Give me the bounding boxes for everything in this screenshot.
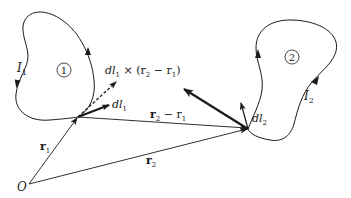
dl1-label: dl1 — [112, 98, 127, 113]
vector-dl1 — [78, 105, 109, 117]
loop1-marker-number: 1 — [61, 65, 67, 76]
vector-r2 — [29, 129, 247, 184]
r2-label: r2 — [146, 154, 156, 169]
loop1-current-label: I1 — [16, 61, 27, 77]
r2-minus-r1-label: r2 − r1 — [150, 108, 186, 123]
biot-savart-diagram: 1 2 I1 I2 dl1 × (r2 − r1) dl1 dl2 r2 − r… — [0, 0, 351, 198]
loop2-direction-arrow-icon — [311, 76, 319, 85]
vector-force-on-dl2 — [184, 89, 248, 129]
vector-dl1-cross-r — [78, 82, 116, 117]
loop2-current-label: I2 — [303, 89, 314, 105]
dl2-label: dl2 — [252, 112, 267, 127]
r1-label: r1 — [40, 140, 50, 155]
current-loop-1 — [16, 12, 95, 120]
cross-product-label: dl1 × (r2 − r1) — [105, 64, 181, 79]
loop2-marker-number: 2 — [289, 52, 295, 63]
origin-label: O — [17, 180, 27, 194]
